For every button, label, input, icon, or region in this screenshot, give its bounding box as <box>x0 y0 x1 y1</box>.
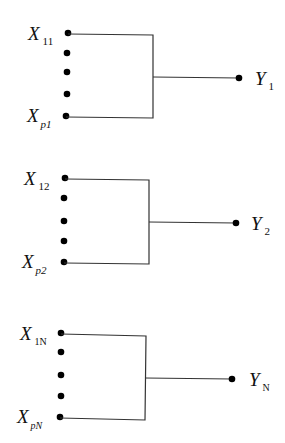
output-label: YN <box>249 369 270 393</box>
input-node-bottom <box>57 414 64 421</box>
input-node-bottom <box>63 113 70 120</box>
ellipsis-dot <box>58 349 65 356</box>
input-bottom-label: XpN <box>16 406 44 431</box>
ellipsis-dot <box>58 393 65 400</box>
diagram-canvas: X11 Xp1 Y1 X12 Xp2 Y2 X1N XpN <box>0 0 285 443</box>
output-wire <box>149 222 236 223</box>
ellipsis-dot <box>64 69 71 76</box>
ellipsis-dot <box>61 195 68 202</box>
output-wire <box>145 378 232 379</box>
output-node <box>233 220 240 227</box>
ellipsis-dot <box>64 50 71 57</box>
input-top-label: X12 <box>23 168 50 192</box>
ellipsis-dot <box>58 372 65 379</box>
output-node <box>236 75 243 82</box>
ellipsis-dot <box>61 218 68 225</box>
input-bottom-label: Xp1 <box>26 105 52 130</box>
group-2: X12 Xp2 Y2 <box>21 168 270 276</box>
input-node-top <box>62 175 69 182</box>
output-label: Y1 <box>255 68 274 92</box>
bracket-connector <box>60 334 146 420</box>
input-node-top <box>58 330 65 337</box>
input-top-label: X1N <box>19 323 47 347</box>
input-bottom-label: Xp2 <box>21 251 47 276</box>
bracket-connector <box>66 34 153 118</box>
bracket-connector <box>64 179 149 264</box>
output-wire <box>153 77 239 78</box>
ellipsis-dot <box>64 91 71 98</box>
group-1: X11 Xp1 Y1 <box>26 23 274 130</box>
input-top-label: X11 <box>27 23 53 47</box>
output-label: Y2 <box>251 213 270 237</box>
output-node <box>229 376 236 383</box>
ellipsis-dot <box>61 238 68 245</box>
input-node-top <box>65 30 72 37</box>
group-n: X1N XpN YN <box>16 323 270 431</box>
input-node-bottom <box>61 259 68 266</box>
